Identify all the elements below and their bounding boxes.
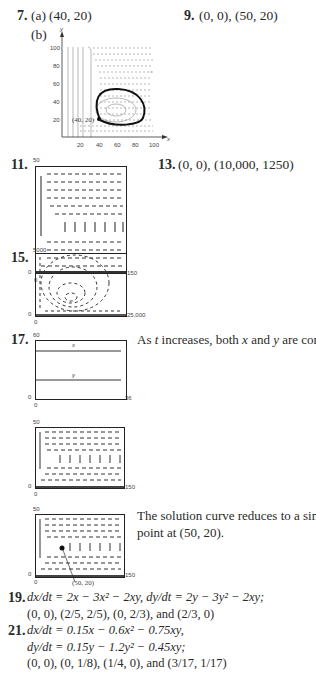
problem-13-answer: (0, 0), (10,000, 1250): [178, 157, 294, 173]
problem-21-answer: (0, 0), (0, 1/8), (1/4, 0), and (3/17, 1…: [27, 656, 227, 671]
problem-17-answer: As t increases, both x and y are constan…: [137, 332, 316, 348]
problem-17-answer2-line2: point at (50, 20).: [137, 525, 224, 541]
problem-19-number: 19.: [8, 590, 26, 606]
problem-21-number: 21.: [8, 623, 26, 639]
direction-field-17b: [35, 427, 125, 489]
point-label-50-20: (50, 20): [72, 579, 94, 587]
problem-19-answer: (0, 0), (2/5, 2/5), (0, 2/3), and (2/3, …: [27, 607, 214, 622]
problem-21-equation-2: dy/dt = 0.15y − 1.2y² − 0.45xy;: [27, 640, 186, 655]
problem-17-number: 17.: [11, 332, 29, 348]
problem-21-equation-1: dx/dt = 0.15x − 0.6x² − 0.75xy,: [27, 623, 184, 638]
problem-13-number: 13.: [158, 157, 176, 173]
problem-19-equations: dx/dt = 2x − 3x² − 2xy, dy/dt = 2y − 3y²…: [27, 590, 264, 605]
problem-11-number: 11.: [11, 157, 28, 173]
direction-field-17c: [35, 514, 125, 578]
direction-field-15: [35, 253, 127, 317]
problem-17-answer2-line1: The solution curve reduces to a single: [137, 508, 316, 524]
problem-15-number: 15.: [11, 250, 29, 266]
problem-9-answer: (0, 0), (50, 20): [199, 8, 278, 24]
problem-9-number: 9.: [184, 8, 195, 24]
time-series-graph-17: [35, 340, 127, 400]
point-label-40-20: (40, 20): [72, 116, 94, 124]
